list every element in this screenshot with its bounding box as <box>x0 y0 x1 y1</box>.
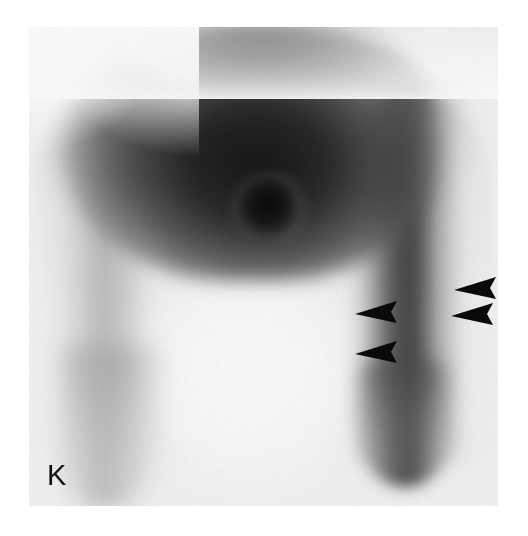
panel-label: K <box>47 461 66 490</box>
count-noise-texture <box>29 27 498 506</box>
arrowhead-right-lower <box>451 301 493 327</box>
arrowhead-left-lower <box>355 339 397 365</box>
arrowhead-right-upper <box>454 275 496 301</box>
scintigram-image <box>29 27 498 506</box>
arrowhead-left-upper <box>355 299 397 325</box>
figure-panel: K <box>0 0 528 536</box>
